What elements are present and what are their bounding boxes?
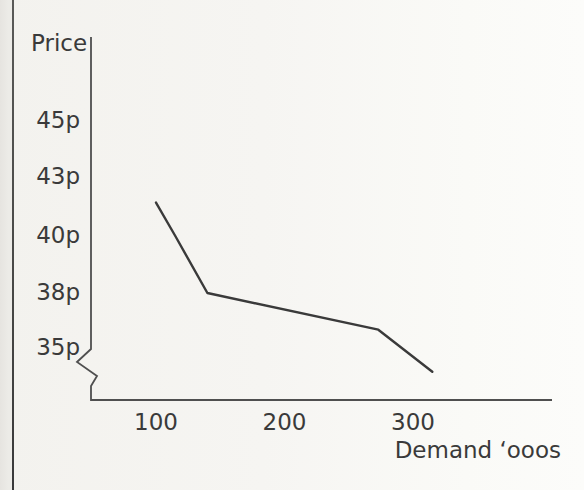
x-tick-label-100: 100 [111,409,201,435]
x-tick-label-300: 300 [368,409,458,435]
y-tick-label-40p: 40p [0,222,80,248]
demand-curve-line [156,203,432,372]
y-tick-label-43p: 43p [0,163,80,189]
price-demand-chart: Price 45p43p40p38p35p 100200300 Demand ‘… [0,0,584,490]
axes-with-y-break [77,37,552,400]
scanned-book-page: Price 45p43p40p38p35p 100200300 Demand ‘… [0,0,584,490]
x-axis-title: Demand ‘ooos [395,437,561,463]
y-tick-label-35p: 35p [0,334,80,360]
x-tick-label-200: 200 [240,409,330,435]
y-tick-label-38p: 38p [0,279,80,305]
y-tick-label-45p: 45p [0,107,80,133]
